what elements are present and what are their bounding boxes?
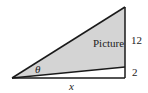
length-2-label: 2	[132, 67, 138, 78]
base-x-label: x	[69, 81, 74, 92]
picture-label: Picture	[93, 38, 124, 49]
triangle-diagram	[0, 0, 148, 93]
angle-theta-label: θ	[35, 64, 40, 75]
length-12-label: 12	[131, 35, 142, 46]
